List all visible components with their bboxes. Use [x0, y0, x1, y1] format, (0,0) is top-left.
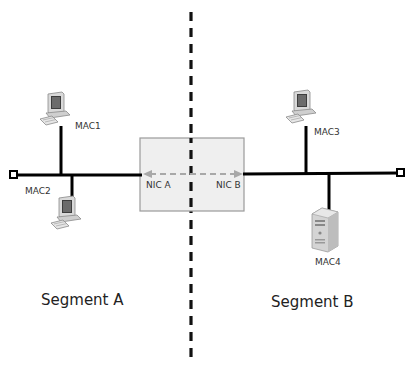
workstation-mac2-icon [51, 196, 81, 229]
label-mac3: MAC3 [314, 127, 340, 137]
label-nic-a: NIC A [146, 180, 171, 190]
label-mac4: MAC4 [315, 257, 341, 267]
workstation-mac3-icon [286, 90, 316, 123]
label-segment-a: Segment A [41, 291, 124, 309]
label-mac2: MAC2 [25, 186, 51, 196]
workstation-mac1-icon [40, 92, 70, 125]
bus-segment-b [243, 173, 400, 174]
terminator-right [397, 169, 404, 176]
terminator-left [10, 171, 17, 178]
label-segment-b: Segment B [271, 293, 354, 311]
label-nic-b: NIC B [216, 180, 241, 190]
server-mac4-icon [312, 208, 338, 252]
label-mac1: MAC1 [75, 121, 101, 131]
network-diagram [0, 0, 416, 373]
